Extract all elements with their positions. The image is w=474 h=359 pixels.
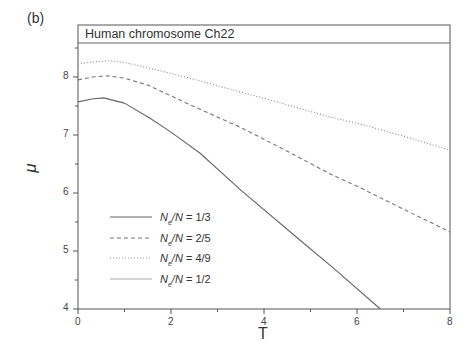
- y-axis-ticks: [73, 48, 78, 309]
- legend-item: Ne/N = 1/2: [110, 269, 211, 290]
- x-tick-label: 2: [168, 316, 174, 327]
- x-axis-label: T: [258, 325, 268, 343]
- legend: Ne/N = 1/3 Ne/N = 2/5 Ne/N = 4/9 Ne/N = …: [110, 207, 211, 289]
- legend-label: Ne/N = 4/9: [160, 252, 211, 264]
- chart-title: Human chromosome Ch22: [85, 27, 234, 41]
- x-tick-label: 6: [354, 316, 360, 327]
- x-axis-ticks: [78, 309, 450, 314]
- panel-label: (b): [27, 10, 44, 26]
- line-chart: [0, 0, 474, 359]
- legend-swatch-dotted-icon: [110, 255, 152, 261]
- x-tick-label: 0: [75, 316, 81, 327]
- y-axis-label: μ: [21, 163, 41, 172]
- legend-item: Ne/N = 2/5: [110, 228, 211, 249]
- x-tick-label: 8: [447, 316, 453, 327]
- y-tick-label: 5: [63, 244, 69, 255]
- series-line: [78, 61, 450, 150]
- legend-label: Ne/N = 2/5: [160, 232, 211, 244]
- y-tick-label: 7: [63, 128, 69, 139]
- legend-label: Ne/N = 1/3: [160, 211, 211, 223]
- x-tick-label: 4: [261, 316, 267, 327]
- y-tick-label: 6: [63, 186, 69, 197]
- y-tick-label: 8: [63, 70, 69, 81]
- legend-item: Ne/N = 1/3: [110, 207, 211, 228]
- legend-swatch-dashed-icon: [110, 235, 152, 241]
- legend-swatch-solid-light-icon: [110, 276, 152, 282]
- legend-label: Ne/N = 1/2: [160, 273, 211, 285]
- y-tick-label: 4: [63, 302, 69, 313]
- legend-swatch-solid-icon: [110, 214, 152, 220]
- legend-item: Ne/N = 4/9: [110, 248, 211, 269]
